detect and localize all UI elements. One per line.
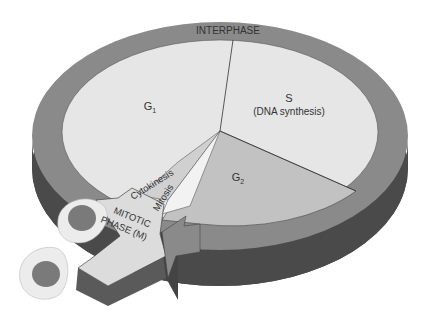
cell-cycle-diagram: INTERPHASE G1 S (DNA synthesis) G2 Cytok…	[0, 0, 423, 313]
daughter-cell-lower	[20, 247, 68, 299]
s-label: S	[285, 92, 292, 104]
nucleus	[32, 261, 60, 287]
nucleus	[68, 205, 96, 231]
s-sublabel: (DNA synthesis)	[253, 106, 325, 117]
interphase-label: INTERPHASE	[196, 25, 260, 36]
